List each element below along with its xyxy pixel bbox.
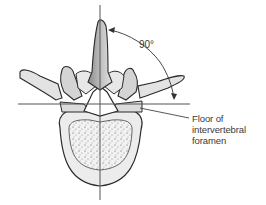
- arrowhead-top: [108, 27, 115, 33]
- vertebral-body: [59, 108, 142, 186]
- arrowhead-bottom: [171, 93, 177, 100]
- foramen-callout-label: Floor of intervertebral foramen: [192, 113, 266, 146]
- callout-line-3: foramen: [192, 135, 266, 146]
- callout-line-2: intervertebral: [192, 124, 266, 135]
- vertebra-diagram: 90° Floor of intervertebral foramen: [0, 0, 266, 205]
- angle-label: 90°: [139, 39, 154, 50]
- callout-line-1: Floor of: [192, 113, 266, 124]
- callout-leader-line: [140, 108, 189, 118]
